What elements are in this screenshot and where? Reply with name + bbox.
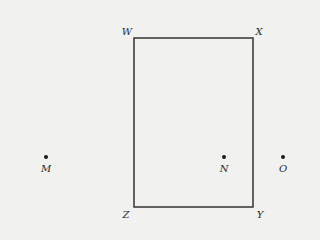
- point-m-dot: [44, 155, 48, 159]
- vertex-label-x: X: [255, 27, 262, 37]
- point-label-n: N: [220, 164, 229, 174]
- rectangle-wxyz: [134, 38, 253, 207]
- point-label-m: M: [41, 164, 51, 174]
- point-o-dot: [281, 155, 285, 159]
- point-n-dot: [222, 155, 226, 159]
- point-label-o: O: [279, 164, 287, 174]
- vertex-label-z: Z: [123, 210, 130, 220]
- vertex-label-w: W: [122, 27, 132, 37]
- vertex-label-y: Y: [257, 210, 264, 220]
